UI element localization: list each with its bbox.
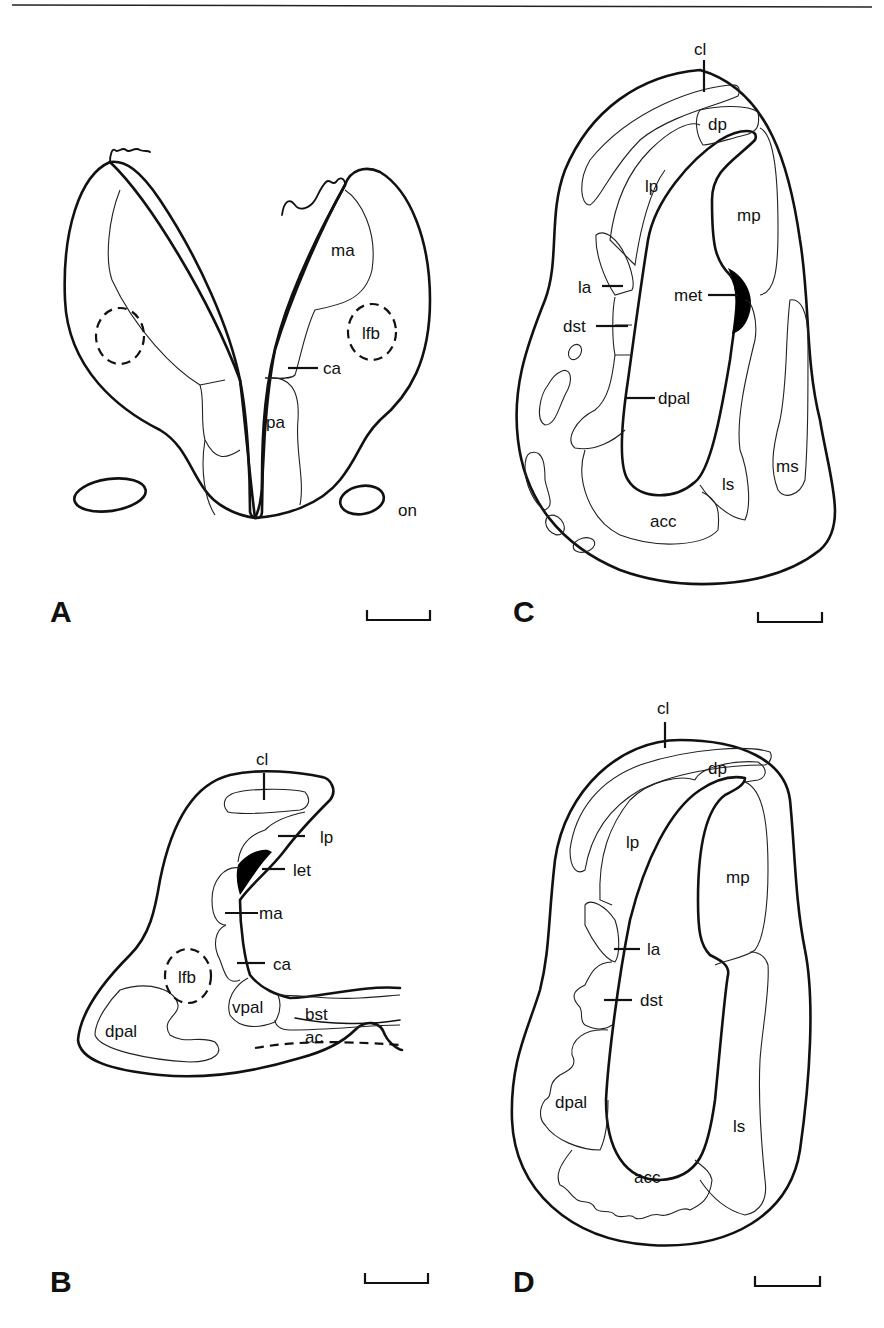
panel-d-label-dst: dst (640, 991, 663, 1010)
panel-a-midline (110, 162, 345, 518)
panel-b-label-dpal: dpal (105, 1022, 137, 1041)
panel-d-label-cl: cl (657, 699, 669, 718)
panel-a-label-ca: ca (323, 359, 342, 378)
panel-a-letter: A (50, 595, 72, 628)
panel-c-label-ls: ls (722, 475, 734, 494)
panel-c-dpal (571, 355, 625, 449)
panel-b-label-bst: bst (305, 1005, 328, 1024)
panel-c-label-ms: ms (776, 457, 799, 476)
panel-a-on-left (72, 474, 148, 516)
panel-a-scale-bar (367, 610, 430, 620)
panel-d-label-ls: ls (733, 1117, 745, 1136)
panel-d-dst (574, 962, 612, 1029)
panel-c-cl (582, 85, 740, 205)
panel-c-label-cl: cl (694, 40, 706, 59)
panel-b-letter: B (50, 1265, 72, 1298)
panel-a-label-lfb: lfb (362, 324, 380, 343)
panel-a-region-right-ma (265, 190, 373, 378)
panel-d-cl (570, 748, 771, 871)
panel-a-label-pa: pa (266, 413, 285, 432)
panel-c-island (539, 370, 570, 425)
panel-b: cl lp let ma ca lfb vpal bst dpal ac B (50, 750, 428, 1298)
panel-c-label-lp: lp (645, 177, 658, 196)
panel-c-label-mp: mp (737, 206, 761, 225)
panel-a-meninges-right (282, 178, 345, 215)
panel-d-scale-bar (755, 1276, 820, 1286)
panel-a-right-hemisphere (255, 169, 430, 518)
panel-c-label-met: met (674, 286, 703, 305)
panel-c-label-acc: acc (650, 512, 677, 531)
panel-c-mp (760, 128, 778, 295)
panel-c-letter: C (513, 595, 535, 628)
panel-d-label-acc: acc (634, 1168, 661, 1187)
panel-b-label-lfb: lfb (178, 968, 196, 987)
panel-d: cl dp lp mp la dst dpal ls acc D (512, 699, 820, 1298)
panel-d-lp (600, 778, 695, 905)
panel-c-label-dpal: dpal (658, 389, 690, 408)
panel-b-label-cl: cl (256, 750, 268, 769)
panel-c-label-dst: dst (563, 317, 586, 336)
panel-c-island (566, 342, 584, 362)
panel-b-label-ma: ma (259, 904, 283, 923)
panel-b-label-lp: lp (320, 828, 333, 847)
panel-c: cl dp lp mp la met dst dpal ms ls acc C (513, 40, 835, 628)
panel-a-region-right-pa (265, 378, 301, 505)
panel-b-label-let: let (293, 861, 311, 880)
panel-a-region-left-ma (108, 190, 240, 457)
panel-a-label-on: on (398, 501, 417, 520)
top-rule (12, 5, 872, 7)
panel-b-label-ca: ca (273, 955, 292, 974)
figure-canvas: ma lfb ca pa on A (0, 0, 884, 1328)
panel-d-label-dpal: dpal (555, 1093, 587, 1112)
panel-d-label-mp: mp (726, 868, 750, 887)
panel-b-scale-bar (365, 1273, 428, 1283)
panel-b-label-ac: ac (305, 1028, 323, 1047)
panel-c-label-dp: dp (708, 115, 727, 134)
panel-b-ma-ca (212, 868, 240, 982)
panel-c-label-la: la (578, 278, 592, 297)
panel-b-cl (224, 789, 308, 813)
panel-b-label-vpal: vpal (232, 998, 263, 1017)
panel-d-label-lp: lp (626, 833, 639, 852)
panel-d-label-dp: dp (708, 759, 727, 778)
panel-a-label-ma: ma (331, 241, 355, 260)
panel-c-dp (696, 106, 758, 145)
panel-b-bst (275, 995, 400, 1030)
panel-d-letter: D (513, 1265, 535, 1298)
panel-b-ventricle-wall (240, 777, 400, 998)
panel-a-lfb-left (96, 308, 144, 364)
panel-d-dpal (540, 1030, 608, 1150)
panel-a: ma lfb ca pa on A (50, 149, 430, 628)
panel-a-left-hemisphere (65, 162, 255, 518)
panel-a-meninges-left (110, 149, 150, 162)
panel-d-label-la: la (647, 940, 661, 959)
panel-a-region-left-divider (200, 380, 225, 385)
panel-a-on-right (338, 482, 386, 517)
panel-d-la (585, 902, 619, 962)
panel-c-scale-bar (758, 612, 822, 622)
